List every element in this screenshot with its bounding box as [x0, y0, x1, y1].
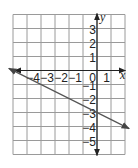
grid-lines [13, 15, 125, 155]
x-tick-label: −1 [68, 71, 82, 85]
y-tick-label: 1 [89, 51, 96, 65]
x-tick-label: −2 [54, 71, 68, 85]
x-axis-label: x [119, 68, 126, 82]
y-tick-label: −2 [82, 93, 96, 107]
y-tick-label: −5 [82, 135, 96, 149]
tick-labels: −4−3−2−101321−1−2−3−4−5 [26, 23, 110, 149]
y-tick-label: 2 [89, 37, 96, 51]
y-tick-label: −4 [82, 121, 96, 135]
y-tick-label: 3 [89, 23, 96, 37]
y-tick-label: −1 [82, 79, 96, 93]
y-axis-label: y [99, 10, 106, 24]
x-tick-label: 1 [103, 71, 110, 85]
x-tick-label: −4 [26, 71, 40, 85]
x-tick-label: −3 [40, 71, 54, 85]
coordinate-plane: −4−3−2−101321−1−2−3−4−5 x y [0, 0, 138, 168]
